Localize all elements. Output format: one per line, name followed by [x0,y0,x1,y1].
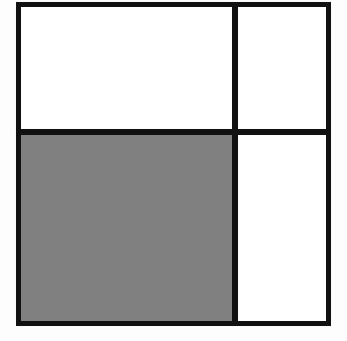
figure-canvas [0,0,347,341]
cell-top-right [238,7,326,129]
cell-bottom-left-shaded [21,135,232,321]
vertical-divider-line [232,2,238,326]
cell-top-left [21,7,232,129]
horizontal-divider-line [16,129,331,135]
cell-bottom-right [238,135,326,321]
